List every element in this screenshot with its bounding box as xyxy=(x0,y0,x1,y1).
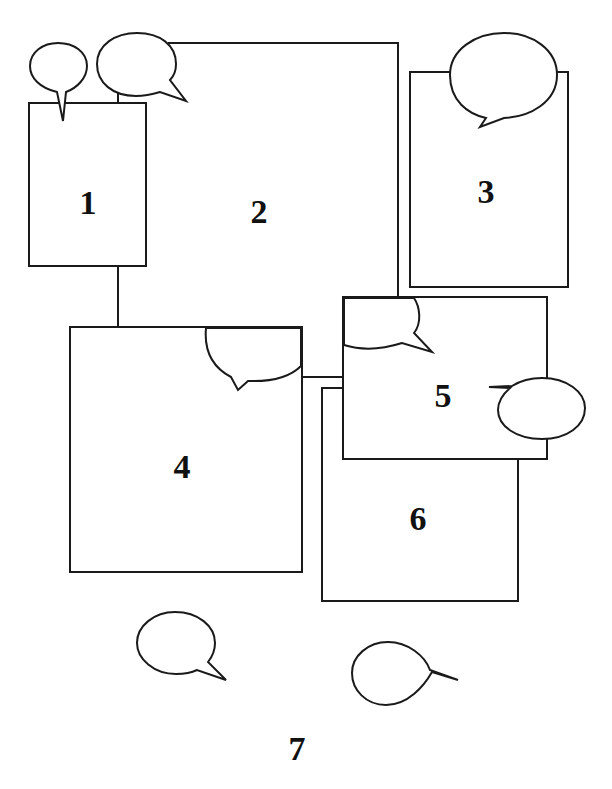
region-label-5: 5 xyxy=(435,379,452,413)
region-label-1: 1 xyxy=(80,186,97,220)
region-label-3: 3 xyxy=(478,175,495,209)
region-2-frame xyxy=(168,43,398,297)
region-label-4: 4 xyxy=(174,450,191,484)
speech-bubble-icon xyxy=(352,642,458,705)
region-label-6: 6 xyxy=(410,502,427,536)
region-label-2: 2 xyxy=(251,195,268,229)
region-label-7: 7 xyxy=(289,732,306,766)
speech-bubble-icon xyxy=(137,612,226,680)
speech-bubble-icon xyxy=(344,298,432,352)
diagram-canvas xyxy=(0,0,612,789)
